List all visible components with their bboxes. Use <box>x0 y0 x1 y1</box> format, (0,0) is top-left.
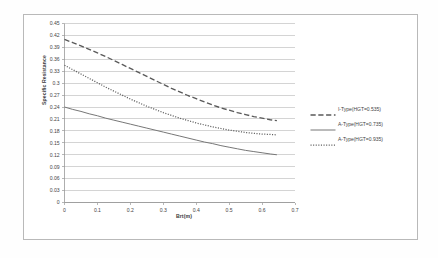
legend-line-swatch <box>310 120 336 128</box>
chart-figure: Specific Resistance Brt(m) 00.030.060.09… <box>0 0 438 258</box>
legend-item-label: A-Type(HGT=0.935) <box>336 136 383 142</box>
series-line-1 <box>65 39 277 120</box>
legend-item-label: I-Type(HGT=0.535) <box>336 106 381 112</box>
legend-item-label: A-Type(HGT=0.735) <box>336 121 383 127</box>
series-line-3 <box>65 65 277 135</box>
chart-legend: I-Type(HGT=0.535)A-Type(HGT=0.735)A-Type… <box>310 101 418 146</box>
legend-item[interactable]: I-Type(HGT=0.535) <box>310 101 418 116</box>
legend-item[interactable]: A-Type(HGT=0.735) <box>310 116 418 131</box>
chart-outer-border: Specific Resistance Brt(m) 00.030.060.09… <box>23 14 418 240</box>
legend-item[interactable]: A-Type(HGT=0.935) <box>310 131 418 146</box>
legend-line-swatch <box>310 105 336 113</box>
legend-line-swatch <box>310 135 336 143</box>
